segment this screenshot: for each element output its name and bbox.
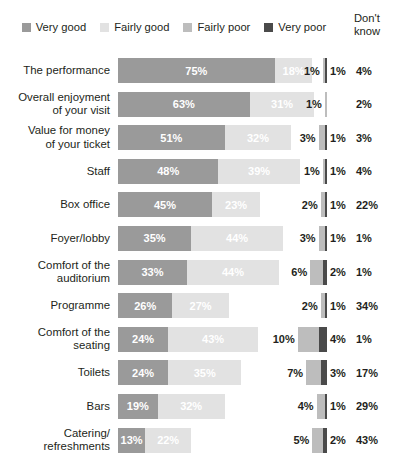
segment-fairly-poor xyxy=(310,260,323,285)
row-category-label: Overall enjoymentof your visit xyxy=(0,89,110,120)
chart-legend: Very goodFairly goodFairly poorVery poor xyxy=(0,22,348,33)
chart-row: Bars19%32%4%1%29% xyxy=(0,391,403,422)
dont-know-value-label: 34% xyxy=(356,293,400,318)
segment-very-good: 33% xyxy=(118,260,187,285)
segment-fairly-good-label: 27% xyxy=(190,300,212,312)
segment-very-good: 26% xyxy=(118,293,172,318)
very-poor-value-label: 1% xyxy=(330,394,354,419)
fairly-poor-value-label: 1% xyxy=(240,58,320,83)
dont-know-value-label: 4% xyxy=(356,159,400,184)
legend-swatch-icon xyxy=(100,23,109,32)
legend-item-label: Fairly poor xyxy=(197,22,250,33)
chart-row: The performance75%18%1%1%4% xyxy=(0,55,403,86)
row-category-label-line: Bars xyxy=(87,400,110,413)
dont-know-value-label: 1% xyxy=(356,327,400,352)
row-category-label-line: The performance xyxy=(23,64,110,77)
segment-fairly-good: 35% xyxy=(168,360,241,385)
chart-row: Catering/refreshments13%22%5%2%43% xyxy=(0,425,403,456)
chart-rows: The performance75%18%1%1%4%Overall enjoy… xyxy=(0,55,403,457)
segment-very-good-label: 51% xyxy=(160,132,182,144)
legend-swatch-icon xyxy=(22,23,31,32)
fairly-poor-value-label: 2% xyxy=(240,293,318,318)
row-category-label-line: Value for money xyxy=(28,124,110,137)
segment-fairly-good-label: 43% xyxy=(202,333,224,345)
row-category-label: Value for moneyof your ticket xyxy=(0,122,110,153)
row-category-label: Programme xyxy=(0,290,110,321)
segment-fairly-good: 32% xyxy=(158,394,225,419)
row-category-label: Bars xyxy=(0,391,110,422)
dont-know-value-label: 3% xyxy=(356,125,400,150)
segment-very-good: 45% xyxy=(118,192,212,217)
segment-very-good: 63% xyxy=(118,92,250,117)
dont-know-value-label: 43% xyxy=(356,428,400,453)
segment-very-good: 24% xyxy=(118,360,168,385)
segment-very-poor xyxy=(325,125,327,150)
segment-very-good-label: 35% xyxy=(144,232,166,244)
dont-know-header-line2: know xyxy=(354,25,400,38)
segment-very-poor xyxy=(323,428,327,453)
segment-very-good-label: 45% xyxy=(154,199,176,211)
very-poor-value-label: 1% xyxy=(330,226,354,251)
dont-know-column-header: Don't know xyxy=(354,12,400,38)
row-category-label-line: Staff xyxy=(87,165,110,178)
row-category-label-line: Foyer/lobby xyxy=(50,232,110,245)
segment-fairly-good: 27% xyxy=(172,293,228,318)
row-category-label: Staff xyxy=(0,156,110,187)
row-category-label-line: seating xyxy=(73,339,110,352)
very-poor-value-label: 3% xyxy=(330,360,354,385)
legend-item: Very poor xyxy=(264,22,326,33)
very-poor-value-label: 1% xyxy=(330,58,354,83)
row-category-label-line: of your ticket xyxy=(45,138,110,151)
segment-very-poor xyxy=(325,226,327,251)
row-category-label-line: Toilets xyxy=(78,366,110,379)
dont-know-value-label: 4% xyxy=(356,58,400,83)
segment-very-good: 48% xyxy=(118,159,218,184)
row-category-label-line: Overall enjoyment xyxy=(18,91,110,104)
very-poor-value-label: 2% xyxy=(330,428,354,453)
chart-row: Box office45%23%2%1%22% xyxy=(0,189,403,220)
chart-row: Staff48%39%1%1%4% xyxy=(0,156,403,187)
segment-very-good: 13% xyxy=(118,428,145,453)
segment-very-good: 19% xyxy=(118,394,158,419)
segment-fairly-poor xyxy=(312,428,322,453)
fairly-poor-value-label: 2% xyxy=(240,192,318,217)
row-bar-track: 24%43% xyxy=(118,327,327,352)
chart-row: Comfort of theauditorium33%44%6%2%1% xyxy=(0,257,403,288)
row-category-label-line: auditorium xyxy=(57,272,110,285)
segment-very-poor xyxy=(323,260,327,285)
segment-very-good-label: 13% xyxy=(121,434,143,446)
legend-swatch-icon xyxy=(183,23,192,32)
segment-very-good-label: 24% xyxy=(132,367,154,379)
chart-row: Programme26%27%2%1%34% xyxy=(0,290,403,321)
segment-fairly-good: 22% xyxy=(145,428,191,453)
dont-know-value-label: 29% xyxy=(356,394,400,419)
dont-know-value-label: 1% xyxy=(356,260,400,285)
segment-very-good: 35% xyxy=(118,226,191,251)
segment-fairly-good-label: 32% xyxy=(180,400,202,412)
row-category-label: Foyer/lobby xyxy=(0,223,110,254)
row-category-label: Comfort of theseating xyxy=(0,324,110,355)
row-category-label: The performance xyxy=(0,55,110,86)
dont-know-value-label: 22% xyxy=(356,192,400,217)
legend-item: Fairly poor xyxy=(183,22,250,33)
chart-row: Foyer/lobby35%44%3%1%1% xyxy=(0,223,403,254)
segment-very-good-label: 24% xyxy=(132,333,154,345)
row-category-label: Toilets xyxy=(0,357,110,388)
row-category-label: Catering/refreshments xyxy=(0,425,110,456)
segment-fairly-good-label: 35% xyxy=(194,367,216,379)
chart-row: Overall enjoymentof your visit63%31%1%2% xyxy=(0,89,403,120)
fairly-poor-value-label: 10% xyxy=(240,327,295,352)
segment-very-poor xyxy=(319,327,327,352)
fairly-poor-value-label: 7% xyxy=(240,360,303,385)
row-category-label-line: Comfort of the xyxy=(38,326,110,339)
fairly-poor-value-label: 3% xyxy=(240,125,316,150)
legend-item-label: Fairly good xyxy=(114,22,169,33)
legend-item: Very good xyxy=(22,22,86,33)
very-poor-value-label: 2% xyxy=(330,260,354,285)
segment-very-good-label: 63% xyxy=(173,98,195,110)
segment-very-poor xyxy=(325,394,327,419)
row-category-label-line: Catering/ xyxy=(64,427,110,440)
segment-very-good-label: 48% xyxy=(157,165,179,177)
segment-very-good-label: 75% xyxy=(185,65,207,77)
segment-very-good-label: 33% xyxy=(141,266,163,278)
